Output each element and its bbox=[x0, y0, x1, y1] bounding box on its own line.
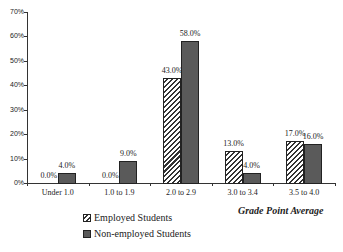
y-tick-label: 60% bbox=[0, 32, 24, 39]
data-label: 13.0% bbox=[219, 139, 249, 148]
x-tick-mark bbox=[335, 183, 336, 186]
x-tick-mark bbox=[27, 183, 28, 186]
x-tick-mark bbox=[89, 183, 90, 186]
y-axis bbox=[27, 12, 28, 183]
y-tick-label: 40% bbox=[0, 81, 24, 88]
legend-label: Non-employed Students bbox=[94, 228, 191, 239]
data-label: 58.0% bbox=[175, 29, 205, 38]
employed-swatch-icon bbox=[83, 214, 91, 222]
x-category-label: 3.5 to 4.0 bbox=[274, 188, 334, 197]
bar-non-employed bbox=[119, 161, 137, 184]
data-label: 16.0% bbox=[298, 132, 328, 141]
legend-label: Employed Students bbox=[94, 212, 172, 223]
x-category-label: 2.0 to 2.9 bbox=[151, 188, 211, 197]
legend-item-employed: Employed Students bbox=[83, 212, 172, 223]
data-label: 4.0% bbox=[237, 161, 267, 170]
x-tick-mark bbox=[273, 183, 274, 186]
bar-non-employed bbox=[181, 41, 199, 184]
bar-non-employed bbox=[58, 173, 76, 184]
y-tick-label: 70% bbox=[0, 8, 24, 15]
bar-non-employed bbox=[243, 173, 261, 184]
data-label: 4.0% bbox=[52, 161, 82, 170]
x-category-label: 3.0 to 3.4 bbox=[213, 188, 273, 197]
legend-item-non-employed: Non-employed Students bbox=[83, 228, 191, 239]
data-label: 9.0% bbox=[113, 149, 143, 158]
bar-employed bbox=[163, 78, 181, 184]
y-tick-label: 50% bbox=[0, 57, 24, 64]
y-tick-label: 30% bbox=[0, 106, 24, 113]
x-category-label: 1.0 to 1.9 bbox=[89, 188, 149, 197]
x-category-label: Under 1.0 bbox=[28, 188, 88, 197]
y-tick-label: 10% bbox=[0, 155, 24, 162]
non-employed-swatch-icon bbox=[83, 230, 91, 238]
x-tick-mark bbox=[150, 183, 151, 186]
bar-employed bbox=[286, 141, 304, 184]
x-tick-mark bbox=[212, 183, 213, 186]
y-tick-label: 20% bbox=[0, 130, 24, 137]
y-tick-label: 0% bbox=[0, 179, 24, 186]
bar-non-employed bbox=[304, 144, 322, 184]
x-axis-title: Grade Point Average bbox=[238, 205, 324, 216]
